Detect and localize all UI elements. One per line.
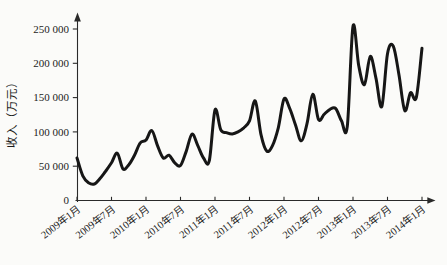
- y-tick-label: 150 000: [33, 91, 69, 103]
- revenue-line-chart: 050 000100 000150 000200 000250 0002009年…: [0, 0, 447, 265]
- y-tick-label: 0: [64, 194, 70, 206]
- y-tick-label: 100 000: [33, 126, 69, 138]
- y-axis-arrowhead-icon: [74, 13, 81, 22]
- y-tick-label: 200 000: [33, 57, 69, 69]
- y-tick-label: 50 000: [39, 160, 70, 172]
- x-tick-label: 2014年1月: [383, 203, 427, 241]
- revenue-chart-figure: 050 000100 000150 000200 000250 0002009年…: [0, 0, 447, 265]
- x-axis-arrowhead-icon: [427, 197, 435, 203]
- y-tick-label: 250 000: [33, 23, 69, 35]
- revenue-curve: [77, 25, 422, 185]
- y-axis-title: 收入（万元）: [5, 76, 18, 148]
